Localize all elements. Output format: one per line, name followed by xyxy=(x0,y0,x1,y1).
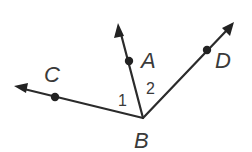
label-a: A xyxy=(139,48,156,73)
label-c: C xyxy=(44,62,60,87)
label-d: D xyxy=(215,48,231,73)
point-c xyxy=(51,93,59,101)
geometry-diagram: A C D B 1 2 xyxy=(0,0,252,152)
arrowhead-icon xyxy=(114,23,124,38)
ray-bd-line xyxy=(143,30,227,118)
ray-bc: C xyxy=(14,62,143,118)
ray-bd: D xyxy=(143,22,234,118)
angle-1-label: 1 xyxy=(118,92,127,109)
point-d xyxy=(203,46,211,54)
label-b: B xyxy=(134,128,149,152)
point-a xyxy=(125,57,133,65)
arrowhead-icon xyxy=(14,83,28,93)
angle-2-label: 2 xyxy=(146,80,155,97)
